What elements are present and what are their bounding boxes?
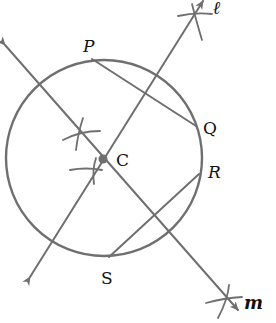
geometry-diagram: P Q R S C ℓ m xyxy=(0,0,276,323)
label-r: R xyxy=(207,162,221,182)
line-l xyxy=(30,1,203,277)
line-m xyxy=(5,45,238,310)
center-point xyxy=(99,155,108,164)
label-s: S xyxy=(101,268,113,288)
label-c: C xyxy=(116,150,129,170)
label-l: ℓ xyxy=(213,0,221,18)
label-q: Q xyxy=(203,118,217,138)
label-p: P xyxy=(82,36,95,56)
label-m: m xyxy=(244,292,263,313)
